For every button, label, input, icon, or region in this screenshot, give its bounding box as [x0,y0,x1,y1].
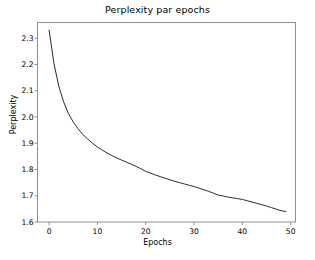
y-tick-label: 1.7 [10,191,34,200]
y-tick-label: 1.9 [10,139,34,148]
x-tick-label: 40 [230,227,254,236]
x-tick-label: 10 [85,227,109,236]
chart-canvas [0,0,315,260]
chart-title: Perplexity par epochs [0,4,315,15]
chart-figure: Perplexity par epochs Epochs Perplexity … [0,0,315,260]
y-tick-label: 1.8 [10,165,34,174]
y-tick-label: 1.6 [10,218,34,227]
x-tick-label: 50 [279,227,303,236]
x-axis-label: Epochs [0,238,315,247]
y-tick-label: 2.1 [10,86,34,95]
plot-frame [38,23,296,223]
x-tick-label: 0 [37,227,61,236]
y-tick-label: 2.2 [10,60,34,69]
x-tick-label: 20 [134,227,158,236]
x-tick-label: 30 [182,227,206,236]
y-tick-label: 2.3 [10,34,34,43]
y-tick-label: 2.0 [10,113,34,122]
